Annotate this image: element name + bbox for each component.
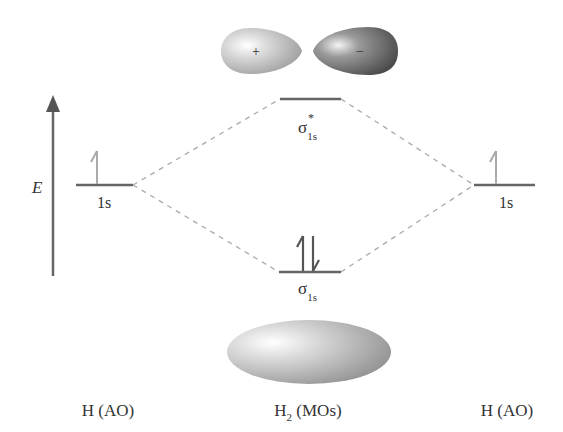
right-1s-level: 1s [474,151,535,211]
bonding-label: σ1s [298,279,317,303]
right-1s-label: 1s [499,194,513,211]
sigma-symbol: σ [298,279,307,298]
antibonding-level: σ1s * [280,99,341,142]
left-1s-label: 1s [97,194,111,211]
mo-diagram-canvas: E 1s 1s σ1s * [0,0,563,432]
right-atom-label: H (AO) [481,401,533,420]
left-spin-up-arrow-icon [91,151,97,184]
energy-axis-label: E [31,178,43,197]
right-spin-up-arrow-icon [490,151,496,184]
left-atom-label: H (AO) [82,401,134,420]
energy-axis: E [31,95,60,276]
minus-sign: − [356,44,364,59]
axis-arrow-icon [46,95,60,112]
molecule-label: H2 (MOs) [274,401,341,423]
left-1s-level: 1s [76,151,133,211]
mo-diagram: E 1s 1s σ1s * [0,0,563,432]
bonding-orbital-ellipse [227,320,391,384]
sigma-symbol: σ [298,118,307,137]
bonding-level: σ1s [279,236,341,303]
antibonding-subscript: 1s [307,130,317,142]
plus-sign: + [252,44,260,59]
antibonding-orbital-lobes: + − [221,27,398,75]
antibonding-star: * [308,111,314,125]
positive-lobe [221,28,302,74]
bonding-subscript: 1s [307,291,317,303]
paired-spin-arrows-icon [297,236,319,271]
